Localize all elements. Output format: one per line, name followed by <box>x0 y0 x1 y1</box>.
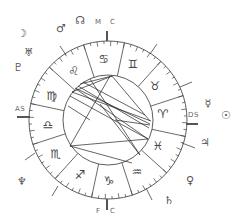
sign-pisces-glyph: ♓ <box>153 140 164 152</box>
sign-aries-glyph: ♈ <box>158 108 169 120</box>
sign-aquarius-glyph: ♒ <box>132 166 143 178</box>
planet-uranus-icon: ♅ <box>24 47 34 58</box>
mc-label-c: C <box>110 19 115 26</box>
dsc-label: DS <box>188 112 199 119</box>
planet-venus-icon: ♀ <box>186 175 194 186</box>
planet-pluto-icon: ♇ <box>13 62 23 73</box>
sign-libra-glyph: ♎ <box>43 119 54 131</box>
planet-moon-icon: ☽ <box>17 28 27 39</box>
natal-chart-wheel <box>0 0 245 222</box>
sign-taurus-glyph: ♉ <box>150 80 161 92</box>
ic-label-c: C <box>110 208 115 215</box>
planet-mercury-icon: ☿ <box>205 98 212 109</box>
planet-mars-icon: ♂ <box>56 23 66 34</box>
sign-leo-glyph: ♌ <box>69 65 80 77</box>
sign-sagittarius-glyph: ♐ <box>75 169 86 181</box>
aspect-lines <box>68 76 151 163</box>
planet-sun-icon: ☉ <box>221 110 231 121</box>
north-node-icon: ☊ <box>75 15 85 26</box>
sign-scorpio-glyph: ♏ <box>51 148 62 160</box>
mc-label: M <box>95 19 102 26</box>
ic-label: F <box>96 208 101 215</box>
sign-cancer-glyph: ♋ <box>99 53 110 65</box>
sign-gemini-glyph: ♊ <box>128 58 139 70</box>
sign-virgo-glyph: ♍ <box>47 90 58 102</box>
asc-label: AS <box>15 106 25 113</box>
sign-capricorn-glyph: ♑ <box>104 175 115 187</box>
planet-neptune-icon: ♆ <box>17 176 27 187</box>
planet-saturn-icon: ♄ <box>164 195 174 206</box>
planet-jupiter-icon: ♃ <box>200 137 210 148</box>
